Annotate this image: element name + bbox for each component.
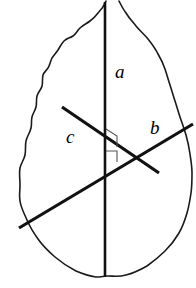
segment-b-label: b (150, 118, 160, 137)
segment-c-short-diagonal (62, 107, 159, 173)
geometry-diagram: a b c (0, 0, 196, 288)
segment-c-label: c (66, 127, 74, 146)
figure-canvas (0, 0, 196, 288)
segment-a-label: a (115, 62, 125, 81)
right-angle-mark-lower (106, 151, 117, 162)
